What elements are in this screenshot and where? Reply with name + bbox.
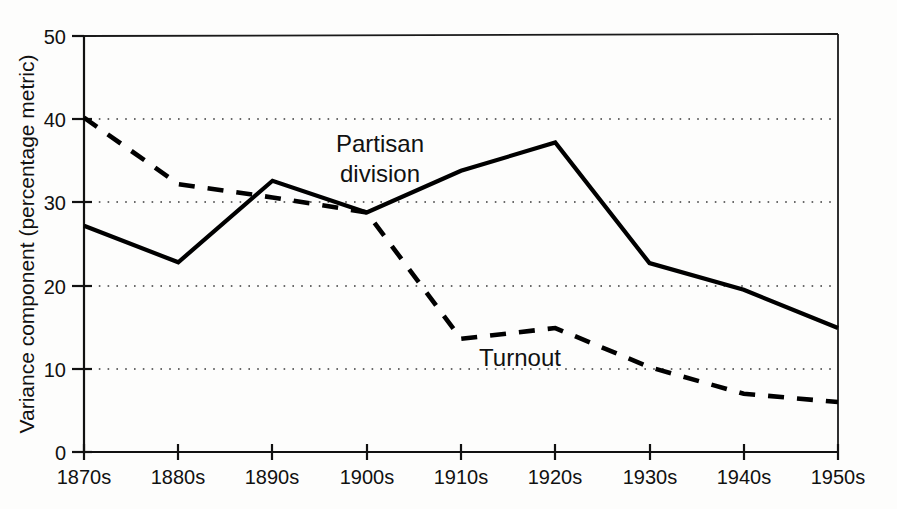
x-tick-label-1950s: 1950s <box>811 466 866 488</box>
y-tick-label-50: 50 <box>44 26 66 48</box>
y-tick-label-10: 10 <box>44 359 66 381</box>
y-axis-title: Variance component (percentage metric) <box>15 55 38 434</box>
x-tick-label-1930s: 1930s <box>623 466 678 488</box>
series-line-turnout <box>84 118 838 403</box>
x-tick-label-1890s: 1890s <box>245 466 300 488</box>
annotation-turnout: Turnout <box>479 344 561 371</box>
x-tick-label-1880s: 1880s <box>151 466 206 488</box>
figure-container: 50 40 30 20 10 0 Variance component (per… <box>0 0 897 509</box>
x-tick-labels: 1870s 1880s 1890s 1900s 1910s 1920s 1930… <box>57 466 866 488</box>
annotation-partisan-division-line2: division <box>340 160 420 187</box>
annotation-partisan-division: Partisan division <box>336 130 424 187</box>
y-tick-label-0: 0 <box>55 442 66 464</box>
y-tick-labels: 50 40 30 20 10 0 <box>44 26 66 464</box>
series-line-partisan-division <box>84 143 838 329</box>
x-tick-label-1900s: 1900s <box>340 466 395 488</box>
plot-frame-top <box>84 34 838 36</box>
x-tick-label-1940s: 1940s <box>717 466 772 488</box>
y-tick-label-40: 40 <box>44 109 66 131</box>
x-tick-label-1910s: 1910s <box>434 466 489 488</box>
x-tick-label-1870s: 1870s <box>57 466 112 488</box>
x-tick-label-1920s: 1920s <box>528 466 583 488</box>
line-chart: 50 40 30 20 10 0 Variance component (per… <box>0 0 897 509</box>
y-tick-marks <box>72 36 92 452</box>
y-tick-label-30: 30 <box>44 192 66 214</box>
y-tick-label-20: 20 <box>44 276 66 298</box>
annotation-partisan-division-line1: Partisan <box>336 130 424 157</box>
